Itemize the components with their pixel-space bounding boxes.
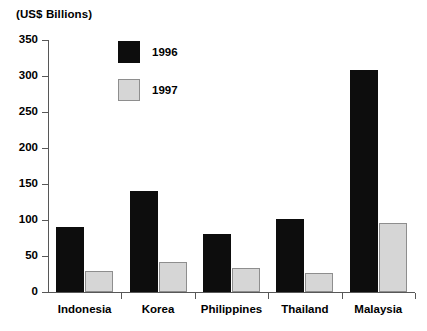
y-axis-tick [42,40,49,41]
x-axis-tick [195,293,196,299]
bar-philippines-1997 [232,268,260,292]
bar-malaysia-1996 [350,70,378,292]
y-axis-tick [42,256,49,257]
gray-square-swatch [118,79,140,101]
x-axis-tick [342,293,343,299]
y-axis-tick-label: 50 [25,249,38,261]
bar-korea-1997 [159,262,187,292]
y-axis-tick-label: 150 [19,177,38,189]
category-label-indonesia: Indonesia [58,303,112,315]
y-axis-tick [42,220,49,221]
legend-label-1997: 1997 [152,84,178,96]
bar-indonesia-1997 [85,271,113,292]
category-label-korea: Korea [142,303,175,315]
category-label-thailand: Thailand [281,303,328,315]
y-axis-tick [42,112,49,113]
x-axis-tick [268,293,269,299]
y-axis-tick [42,148,49,149]
chart-title: (US$ Billions) [16,8,92,20]
black-square-swatch [118,41,140,63]
bar-indonesia-1996 [56,227,84,292]
y-axis-tick-label: 200 [19,141,38,153]
bar-malaysia-1997 [379,223,407,292]
bar-chart: (US$ Billions) 050100150200250300350 Ind… [0,0,427,331]
y-axis-tick-label: 250 [19,105,38,117]
x-axis-tick [121,293,122,299]
bar-thailand-1997 [305,273,333,292]
legend-item-1997: 1997 [118,79,178,101]
category-label-philippines: Philippines [201,303,262,315]
y-axis-tick [42,76,49,77]
legend-label-1996: 1996 [152,46,178,58]
bar-philippines-1996 [203,234,231,292]
y-axis-tick-label: 0 [32,285,38,297]
y-axis-tick-label: 300 [19,69,38,81]
bar-thailand-1996 [276,219,304,292]
x-axis-tick [415,293,416,299]
x-axis-line [48,292,415,293]
y-axis-tick-label: 100 [19,213,38,225]
y-axis-tick-label: 350 [19,33,38,45]
category-label-malaysia: Malaysia [354,303,402,315]
y-axis-tick [42,292,49,293]
legend-item-1996: 1996 [118,41,178,63]
bar-korea-1996 [130,191,158,292]
y-axis-tick [42,184,49,185]
